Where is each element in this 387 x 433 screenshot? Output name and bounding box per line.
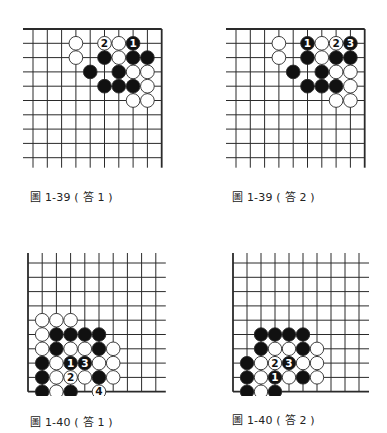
white-stone [315, 51, 329, 65]
caption-1-39-answer-2: 圖 1-39 ( 答 2 ) [232, 188, 315, 204]
white-stone [141, 94, 155, 108]
white-stone [92, 356, 106, 370]
move-number: 1 [304, 37, 311, 49]
black-stone: 1 [268, 371, 281, 384]
black-stone: 3 [344, 36, 358, 50]
black-stone [112, 79, 126, 93]
white-stone [50, 356, 64, 370]
black-stone: 3 [78, 356, 92, 370]
black-stone [35, 385, 49, 396]
white-stone [310, 342, 323, 355]
white-stone: 2 [98, 36, 112, 50]
white-stone [106, 342, 120, 356]
go-diagram-1-39-answer-1: 21 [21, 27, 166, 172]
black-stone [240, 356, 253, 369]
black-stone [92, 328, 106, 342]
black-stone: 1 [301, 36, 315, 50]
black-stone [296, 371, 309, 384]
move-number: 1 [271, 371, 278, 383]
black-stone [301, 51, 315, 65]
white-stone [344, 65, 358, 79]
black-stone [126, 51, 140, 65]
white-stone [78, 342, 92, 356]
white-stone [310, 371, 323, 384]
black-stone [254, 342, 267, 355]
white-stone [126, 94, 140, 108]
white-stone [254, 356, 267, 369]
black-stone [296, 342, 309, 355]
black-stone [344, 51, 358, 65]
white-stone [272, 36, 286, 50]
move-number: 2 [332, 37, 339, 49]
black-stone [112, 65, 126, 79]
black-stone [78, 328, 92, 342]
white-stone [69, 36, 83, 50]
move-number: 1 [67, 357, 74, 369]
black-stone [329, 79, 343, 93]
black-stone [329, 51, 343, 65]
white-stone [50, 313, 64, 327]
move-number: 4 [95, 385, 102, 395]
black-stone [92, 371, 106, 385]
black-stone [315, 65, 329, 79]
white-stone [254, 385, 267, 396]
white-stone [50, 385, 64, 396]
black-stone [240, 371, 253, 384]
move-number: 2 [67, 371, 74, 383]
white-stone [50, 371, 64, 385]
white-stone [106, 371, 120, 385]
white-stone: 2 [64, 371, 78, 385]
black-stone: 1 [126, 36, 140, 50]
white-stone [35, 342, 49, 356]
black-stone [296, 328, 309, 341]
white-stone [254, 371, 267, 384]
black-stone: 1 [64, 356, 78, 370]
white-stone: 2 [268, 356, 281, 369]
white-stone [268, 342, 281, 355]
white-stone [296, 356, 309, 369]
white-stone [344, 79, 358, 93]
black-stone [64, 328, 78, 342]
white-stone [141, 65, 155, 79]
move-number: 1 [129, 37, 136, 49]
black-stone [98, 79, 112, 93]
move-number: 3 [81, 357, 88, 369]
black-stone: 3 [282, 356, 295, 369]
white-stone [78, 371, 92, 385]
white-stone [126, 65, 140, 79]
move-number: 3 [285, 357, 292, 369]
white-stone [64, 342, 78, 356]
black-stone [92, 342, 106, 356]
move-number: 3 [347, 37, 354, 49]
white-stone [112, 51, 126, 65]
black-stone [315, 79, 329, 93]
black-stone [282, 328, 295, 341]
white-stone [272, 51, 286, 65]
caption-1-39-answer-1: 圖 1-39 ( 答 1 ) [30, 188, 113, 204]
black-stone [268, 328, 281, 341]
black-stone [83, 65, 97, 79]
white-stone [69, 51, 83, 65]
caption-1-40-answer-2: 圖 1-40 ( 答 2 ) [232, 411, 315, 427]
white-stone [35, 313, 49, 327]
white-stone [329, 65, 343, 79]
white-stone [310, 356, 323, 369]
black-stone [50, 342, 64, 356]
black-stone [301, 79, 315, 93]
black-stone [240, 385, 253, 396]
white-stone [106, 356, 120, 370]
black-stone [98, 51, 112, 65]
white-stone [64, 313, 78, 327]
go-diagram-1-40-answer-1: 1324 [26, 251, 170, 396]
black-stone [268, 385, 281, 396]
white-stone [282, 342, 295, 355]
black-stone [254, 328, 267, 341]
go-diagram-1-40-answer-2: 231 [231, 251, 373, 396]
black-stone [286, 65, 300, 79]
white-stone [315, 36, 329, 50]
caption-1-40-answer-1: 圖 1-40 ( 答 1 ) [30, 413, 113, 429]
white-stone [35, 328, 49, 342]
white-stone: 2 [329, 36, 343, 50]
white-stone: 4 [92, 385, 106, 396]
white-stone [282, 371, 295, 384]
